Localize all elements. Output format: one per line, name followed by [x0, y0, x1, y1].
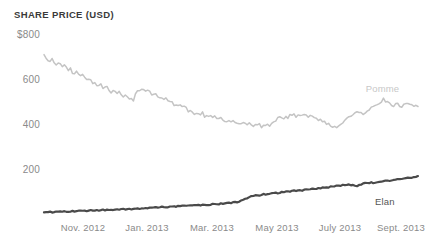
series-label-elan: Elan: [375, 196, 395, 207]
series-line-pomme: [44, 55, 418, 128]
series-line-elan: [44, 176, 418, 213]
share-price-chart: SHARE PRICE (USD) $800600400200 Nov. 201…: [0, 0, 436, 250]
series-label-pomme: Pomme: [366, 83, 400, 94]
plot-area: [0, 0, 436, 250]
